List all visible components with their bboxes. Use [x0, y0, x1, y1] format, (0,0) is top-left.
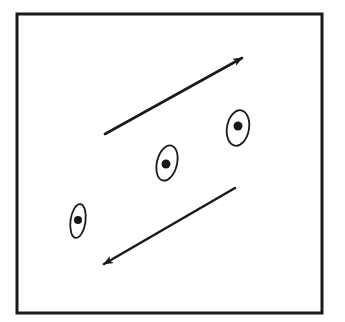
diagram-canvas [0, 0, 345, 322]
cell-1 [68, 203, 88, 239]
cell-nucleus [74, 216, 82, 224]
cell-nucleus [162, 160, 171, 169]
arrow-up-right-icon [105, 58, 242, 134]
arrow-down-left-icon [104, 188, 235, 264]
cell-nucleus [234, 122, 243, 131]
arrows-group [104, 58, 242, 264]
cells-group [68, 108, 252, 239]
cell-2 [153, 143, 181, 183]
cell-3 [224, 108, 252, 147]
